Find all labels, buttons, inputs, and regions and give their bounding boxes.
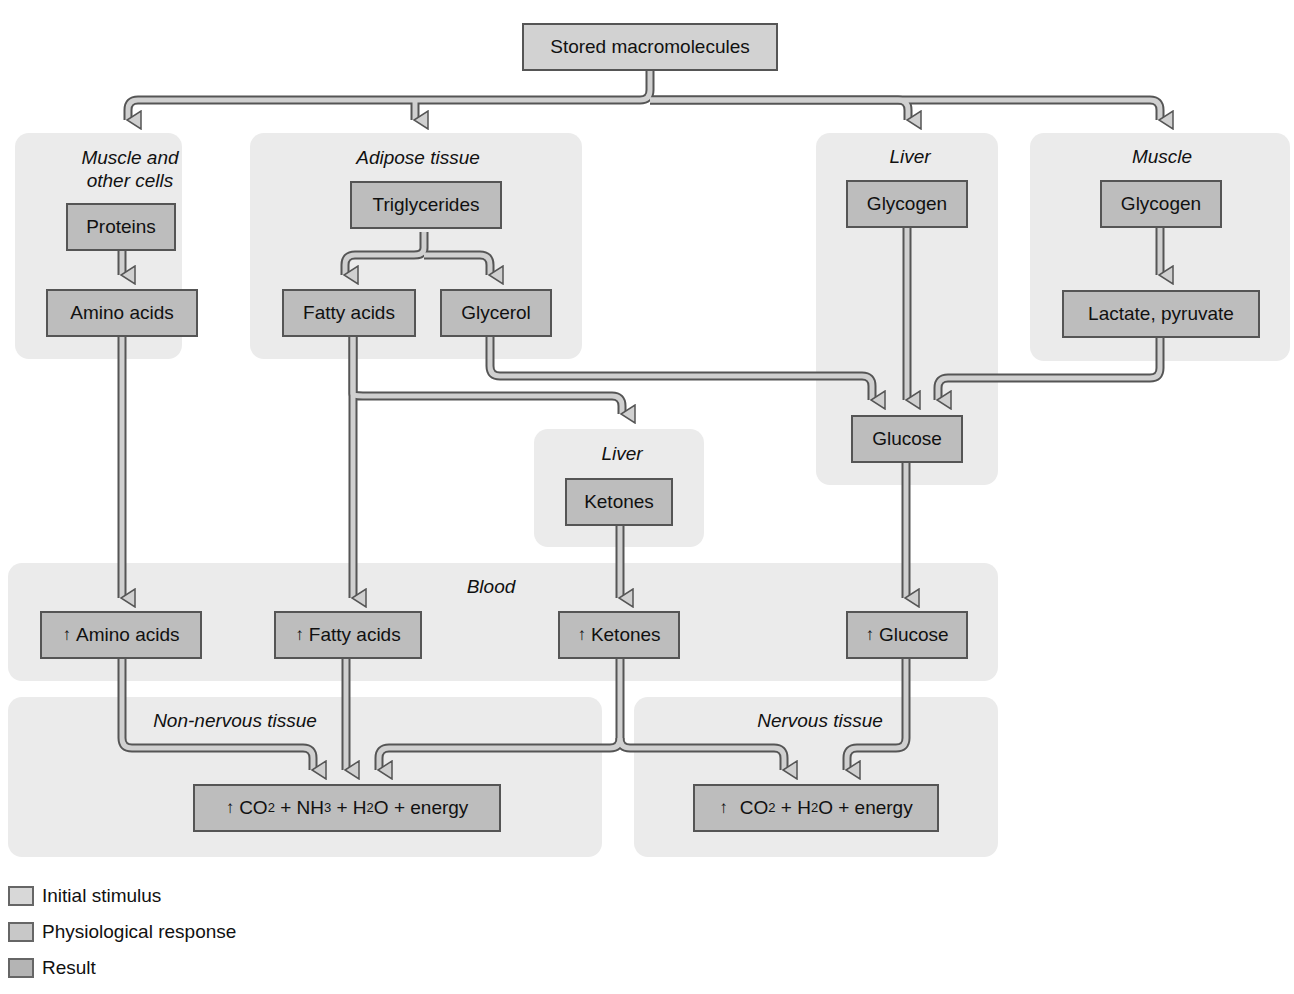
node-result-nervous: ↑CO2 + H2O + energy [693, 784, 939, 832]
node-liver-glycogen: Glycogen [846, 180, 968, 228]
increase-arrow-icon: ↑ [719, 798, 728, 818]
blood-glucose-label: Glucose [879, 624, 949, 646]
legend: Initial stimulus Physiological response … [8, 878, 236, 986]
blood-fatty-acids-label: Fatty acids [309, 624, 401, 646]
increase-arrow-icon: ↑ [577, 625, 586, 645]
label-muscle: Muscle [1102, 145, 1222, 168]
label-liver-ketones: Liver [562, 442, 682, 465]
label-muscle-and: Muscle and [40, 146, 220, 169]
label-liver-top: Liver [850, 145, 970, 168]
h-text: + H [331, 797, 366, 819]
legend-swatch [8, 886, 34, 906]
label-blood: Blood [431, 575, 551, 598]
label-adipose-tissue: Adipose tissue [318, 146, 518, 169]
increase-arrow-icon: ↑ [63, 625, 72, 645]
node-muscle-glycogen: Glycogen [1100, 180, 1222, 228]
node-proteins: Proteins [66, 203, 176, 251]
blood-amino-acids-label: Amino acids [76, 624, 180, 646]
node-blood-fatty-acids: ↑Fatty acids [274, 611, 422, 659]
node-fatty-acids: Fatty acids [282, 289, 416, 337]
node-blood-amino-acids: ↑Amino acids [40, 611, 202, 659]
h-text: + H [776, 797, 811, 819]
legend-label: Initial stimulus [42, 885, 161, 907]
node-ketones: Ketones [565, 478, 673, 526]
tail-text: O + energy [374, 797, 469, 819]
label-non-nervous-tissue: Non-nervous tissue [120, 709, 350, 732]
legend-label: Physiological response [42, 921, 236, 943]
legend-label: Result [42, 957, 96, 979]
co-text: CO [740, 797, 769, 819]
increase-arrow-icon: ↑ [226, 798, 235, 818]
node-glycerol: Glycerol [440, 289, 552, 337]
node-triglycerides: Triglycerides [350, 181, 502, 229]
node-amino-acids: Amino acids [46, 289, 198, 337]
node-result-non-nervous: ↑CO2 + NH3 + H2O + energy [193, 784, 501, 832]
co-text: CO [239, 797, 268, 819]
node-blood-glucose: ↑Glucose [846, 611, 968, 659]
node-blood-ketones: ↑Ketones [558, 611, 680, 659]
legend-swatch [8, 922, 34, 942]
increase-arrow-icon: ↑ [295, 625, 304, 645]
node-stored-macromolecules: Stored macromolecules [522, 23, 778, 71]
legend-item-physiological-response: Physiological response [8, 914, 236, 950]
increase-arrow-icon: ↑ [865, 625, 874, 645]
node-glucose: Glucose [851, 415, 963, 463]
node-lactate-pyruvate: Lactate, pyruvate [1062, 290, 1260, 338]
legend-item-initial-stimulus: Initial stimulus [8, 878, 236, 914]
legend-swatch [8, 958, 34, 978]
label-other-cells: other cells [40, 169, 220, 192]
nh-text: + NH [275, 797, 324, 819]
legend-item-result: Result [8, 950, 236, 986]
tail-text: O + energy [818, 797, 913, 819]
blood-ketones-label: Ketones [591, 624, 661, 646]
label-nervous-tissue: Nervous tissue [710, 709, 930, 732]
